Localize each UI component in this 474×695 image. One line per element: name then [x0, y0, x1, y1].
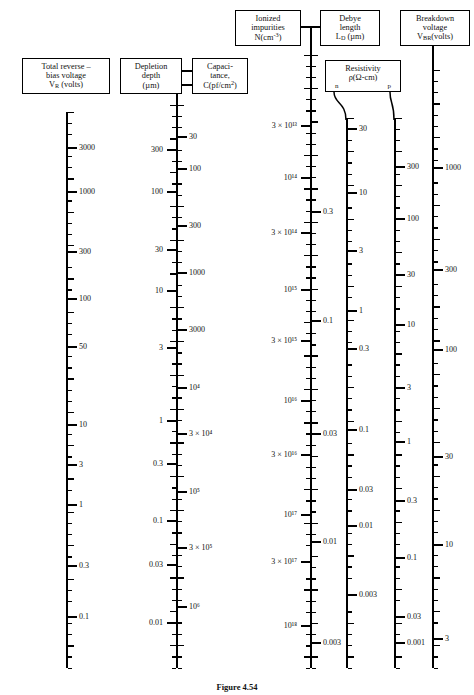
tick-major-rho_n [348, 489, 357, 490]
tick-minor-rho_n [348, 331, 352, 332]
nomograph-figure: Total reverse – bias voltage VR (volts) … [0, 0, 474, 695]
tick-label-rho_n: 30 [359, 125, 367, 133]
tick-minor-breakdown [434, 239, 441, 240]
tick-minor-rho_p [396, 151, 403, 152]
tick-minor-debye [312, 589, 319, 590]
tick-minor-debye [312, 467, 316, 468]
tick-minor-debye [312, 355, 319, 356]
tick-minor-breakdown [434, 487, 438, 488]
tick-major-depletion [167, 347, 176, 348]
tick-label-rho_n: 3 [359, 247, 363, 255]
tick-minor-breakdown [434, 656, 438, 657]
tick-minor-rho_p [396, 398, 400, 399]
box-subscript-row: n p [326, 83, 400, 91]
tick-minor-rho_p [396, 465, 400, 466]
tick-minor-debye [312, 567, 316, 568]
tick-minor-breakdown [434, 600, 438, 601]
tick-minor-capacitance [178, 465, 182, 466]
tick-minor-capacitance [178, 195, 182, 196]
box-line: tance, [210, 71, 230, 80]
tick-label-depletion: 1 [159, 417, 163, 425]
tick-minor-rho_n [348, 578, 352, 579]
tick-minor-capacitance [178, 217, 182, 218]
tick-label-debye: 0.3 [323, 208, 333, 216]
tick-minor-breakdown [434, 216, 438, 217]
tick-minor-rho_n [348, 656, 355, 657]
tick-major-debye [312, 320, 321, 321]
tick-minor-debye [312, 55, 319, 56]
tick-minor-debye [312, 177, 316, 178]
tick-minor-debye [312, 478, 316, 479]
tick-major-capacitance [178, 433, 187, 434]
tick-minor-capacitance [178, 532, 182, 533]
tick-major-rho_n [348, 128, 357, 129]
tick-major-impurities [301, 340, 310, 341]
tick-minor-capacitance [178, 577, 185, 578]
tick-minor-capacitance [178, 352, 182, 353]
connector-depletion-capacitance-h1 [182, 70, 192, 72]
connector-depletion-capacitance-h2 [182, 84, 192, 86]
tick-label-capacitance: 30 [189, 133, 197, 141]
tick-major-capacitance [178, 329, 187, 330]
tick-minor-rho_n [348, 623, 355, 624]
tick-minor-vr [68, 412, 75, 413]
tick-minor-debye [312, 411, 316, 412]
tick-minor-capacitance [178, 105, 185, 106]
tick-minor-vr [68, 123, 72, 124]
box-line: N(cm-3) [255, 32, 282, 42]
tick-minor-breakdown [434, 476, 441, 477]
box-line: Resistivity [345, 64, 381, 73]
tick-major-impurities [301, 177, 310, 178]
tick-label-rho_p: 1 [407, 438, 411, 446]
tick-major-vr [68, 504, 77, 505]
tick-label-vr: 0.3 [79, 562, 89, 570]
tick-minor-capacitance [178, 510, 185, 511]
axis-debye [310, 55, 312, 668]
tick-minor-capacitance [178, 555, 182, 556]
tick-minor-debye [312, 634, 316, 635]
tick-minor-rho_p [396, 376, 400, 377]
tick-minor-vr [68, 378, 75, 379]
box-line: Total reverse – [41, 62, 90, 71]
tick-minor-capacitance [178, 240, 185, 241]
tick-label-rho_p: 0.1 [407, 554, 417, 562]
tick-minor-capacitance [178, 622, 182, 623]
tick-minor-breakdown [434, 340, 441, 341]
tick-minor-debye [312, 500, 316, 501]
tick-major-rho_n [348, 310, 357, 311]
tick-major-impurities [301, 514, 310, 515]
tick-minor-rho_p [396, 656, 403, 657]
tick-minor-capacitance [178, 442, 185, 443]
tick-major-vr [68, 616, 77, 617]
tick-minor-vr [68, 156, 72, 157]
tick-minor-rho_n [348, 286, 355, 287]
tick-minor-debye [312, 233, 316, 234]
tick-minor-capacitance [178, 600, 182, 601]
tick-minor-debye [312, 300, 316, 301]
tick-minor-rho_p [396, 409, 400, 410]
tick-major-breakdown [434, 638, 443, 639]
tick-minor-breakdown [434, 498, 438, 499]
tick-minor-breakdown [434, 227, 438, 228]
tick-minor-vr [68, 601, 72, 602]
tick-label-capacitance: 3000 [189, 326, 205, 334]
box-line: (µm) [143, 81, 160, 90]
tick-label-capacitance: 3 × 10⁴ [189, 430, 212, 438]
tick-minor-breakdown [434, 284, 438, 285]
tick-minor-debye [312, 623, 319, 624]
box-breakdown-voltage: Breakdown voltage VBR(volts) [400, 10, 470, 46]
tick-minor-rho_p [396, 230, 400, 231]
tick-minor-vr [68, 656, 72, 657]
tick-minor-rho_n [348, 409, 352, 410]
tick-minor-rho_n [348, 499, 352, 500]
tick-label-rho_n: 0.01 [359, 522, 373, 530]
tick-minor-breakdown [434, 419, 438, 420]
tick-minor-breakdown [434, 137, 441, 138]
tick-label-capacitance: 3 × 10⁵ [189, 544, 212, 552]
tick-minor-breakdown [434, 374, 441, 375]
axis-rho_n [346, 118, 348, 668]
tick-label-rho_n: 0.3 [359, 345, 369, 353]
tick-minor-capacitance [178, 454, 182, 455]
tick-major-rho_p [396, 324, 405, 325]
tick-minor-rho_n [348, 241, 352, 242]
